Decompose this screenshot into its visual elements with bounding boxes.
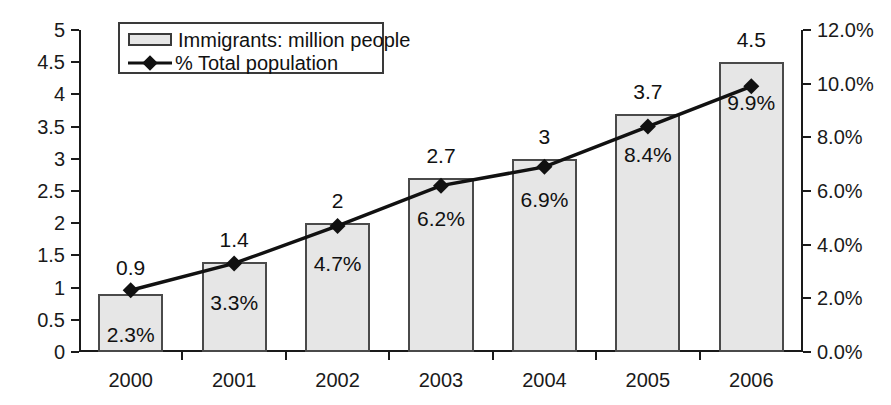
left-tick-label: 1.5 [37,245,65,265]
left-tick-mark [71,254,79,256]
bar-percent-label: 3.3% [210,292,258,313]
bar: 6.9% [512,159,577,352]
left-tick-mark [71,287,79,289]
left-tick-label: 5 [54,20,65,40]
bar-swatch-icon [128,33,172,46]
bar: 4.7% [305,223,370,352]
left-tick-mark [71,93,79,95]
right-tick-label: 2.0% [817,288,863,308]
x-tick-label: 2003 [419,370,464,390]
bar-value-label: 2 [332,190,344,211]
x-tick-mark [285,352,287,360]
plot-area: 00.511.522.533.544.55 0.0%2.0%4.0%6.0%8.… [79,30,803,352]
left-tick-mark [71,319,79,321]
right-tick-mark [803,29,811,31]
immigration-chart: 00.511.522.533.544.55 0.0%2.0%4.0%6.0%8.… [0,0,891,405]
legend-item-label: % Total population [175,53,338,73]
bar: 3.3% [202,262,267,352]
bar-value-label: 4.5 [737,29,766,50]
left-tick-label: 0.5 [37,310,65,330]
line-diamond-swatch-icon [128,56,172,70]
x-tick-mark [181,352,183,360]
left-tick-mark [71,61,79,63]
right-tick-label: 6.0% [817,181,863,201]
bar-value-label: 0.9 [116,257,145,278]
left-tick-label: 2.5 [37,181,65,201]
legend-item-label: Immigrants: million people [178,30,410,50]
left-tick-label: 3 [54,149,65,169]
x-tick-mark [492,352,494,360]
left-tick-mark [71,29,79,31]
left-tick-label: 4.5 [37,52,65,72]
x-tick-label: 2005 [626,370,671,390]
right-tick-mark [803,83,811,85]
right-tick-mark [803,136,811,138]
bar: 6.2% [408,178,473,352]
right-tick-mark [803,351,811,353]
bar-percent-label: 9.9% [727,92,775,113]
bar: 2.3% [98,294,163,352]
left-tick-mark [71,190,79,192]
left-tick-mark [71,158,79,160]
right-tick-mark [803,297,811,299]
bar: 9.9% [719,62,784,352]
x-tick-mark [699,352,701,360]
bar-percent-label: 6.9% [520,189,568,210]
right-tick-label: 12.0% [817,20,874,40]
bar-value-label: 3.7 [633,81,662,102]
bar: 8.4% [615,114,680,352]
left-tick-mark [71,351,79,353]
left-tick-mark [71,126,79,128]
x-tick-label: 2000 [108,370,153,390]
x-tick-label: 2001 [212,370,257,390]
left-tick-label: 3.5 [37,117,65,137]
x-tick-mark [388,352,390,360]
right-tick-label: 8.0% [817,127,863,147]
x-tick-mark [595,352,597,360]
right-tick-label: 4.0% [817,235,863,255]
right-tick-mark [803,190,811,192]
left-tick-label: 1 [54,278,65,298]
bar-value-label: 2.7 [426,145,455,166]
bar-percent-label: 4.7% [314,253,362,274]
left-tick-label: 2 [54,213,65,233]
right-tick-label: 10.0% [817,74,874,94]
right-tick-label: 0.0% [817,342,863,362]
x-tick-label: 2002 [315,370,360,390]
legend-item-percent-total-population: % Total population [128,51,374,74]
x-tick-label: 2004 [522,370,567,390]
left-axis-line [79,30,81,352]
bar-percent-label: 8.4% [624,144,672,165]
bar-percent-label: 6.2% [417,208,465,229]
x-tick-label: 2006 [729,370,774,390]
left-tick-label: 0 [54,342,65,362]
bar-percent-label: 2.3% [107,324,155,345]
left-tick-label: 4 [54,84,65,104]
bar-value-label: 3 [539,126,551,147]
legend-item-immigrants: Immigrants: million people [128,28,374,51]
right-tick-mark [803,244,811,246]
chart-legend: Immigrants: million people % Total popul… [118,22,384,74]
bar-value-label: 1.4 [220,229,249,250]
left-tick-mark [71,222,79,224]
